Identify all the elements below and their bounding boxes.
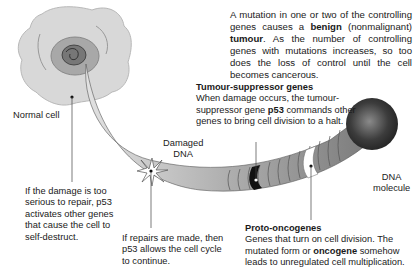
repairs-note: If repairs are made, then p53 allows the…	[122, 233, 232, 267]
oncogene-bold: oncogene	[313, 246, 357, 256]
dna-molecule-label: DNA molecule	[373, 172, 410, 195]
tumour-suppressor-title: Tumour-suppressor genes	[196, 82, 313, 92]
p53-bold: p53	[268, 105, 284, 115]
tumour-suppressor-note: Tumour-suppressor genes When damage occu…	[196, 82, 356, 128]
proto-oncogenes-note: Proto-oncogenes Genes that turn on cell …	[245, 223, 413, 269]
proto-oncogenes-title: Proto-oncogenes	[245, 223, 321, 233]
dna-molecule-label-line2: molecule	[373, 183, 410, 193]
intro-text: (nonmalignant)	[342, 21, 412, 32]
damaged-dna-label: Damaged DNA	[163, 138, 203, 161]
intro-bold-tumour: tumour	[230, 33, 263, 44]
dna-molecule-label-line1: DNA	[382, 172, 402, 182]
damaged-dna-label-line2: DNA	[173, 149, 193, 159]
intro-bold-benign: benign	[310, 21, 341, 32]
normal-cell-label: Normal cell	[13, 110, 60, 121]
normal-cell-illustration	[18, 7, 131, 182]
self-destruct-note: If the damage is too serious to repair, …	[25, 186, 115, 243]
intro-paragraph: A mutation in one or two of the controll…	[230, 9, 412, 81]
damaged-dna-label-line1: Damaged	[163, 138, 203, 148]
